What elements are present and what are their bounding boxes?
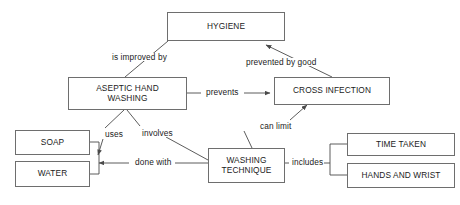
edge-label-involves: involves [141,129,174,137]
edge-label-includes: includes [291,158,324,166]
edge-label-can-limit: can limit [259,122,292,130]
node-aseptic-hand-washing-label: ASEPTIC HAND WASHING [94,84,161,104]
node-cross-infection[interactable]: CROSS INFECTION [274,77,390,105]
node-hygiene[interactable]: HYGIENE [167,12,285,41]
node-time-taken-label: TIME TAKEN [374,140,428,150]
concept-map-canvas: HYGIENE ASEPTIC HAND WASHING CROSS INFEC… [0,0,460,205]
node-hygiene-label: HYGIENE [205,22,247,32]
node-water[interactable]: WATER [15,161,90,187]
node-water-label: WATER [36,169,70,179]
node-soap[interactable]: SOAP [15,130,90,155]
node-soap-label: SOAP [39,138,66,148]
node-hands-and-wrist-label: HANDS AND WRIST [360,171,443,181]
edge-label-is-improved-by: is improved by [111,53,168,61]
node-hands-and-wrist[interactable]: HANDS AND WRIST [347,163,455,188]
edge-label-prevented-by-good: prevented by good [245,58,317,66]
node-cross-infection-label: CROSS INFECTION [291,86,373,96]
edge-label-uses: uses [104,130,124,138]
node-washing-technique-label: WASHING TECHNIQUE [220,156,274,176]
node-washing-technique[interactable]: WASHING TECHNIQUE [208,148,285,183]
node-time-taken[interactable]: TIME TAKEN [347,133,455,156]
node-aseptic-hand-washing[interactable]: ASEPTIC HAND WASHING [68,77,187,110]
bracket-includes [330,144,347,175]
edge-label-done-with: done with [134,158,172,166]
bracket-soap-water [90,142,99,174]
edge-label-prevents: prevents [205,88,240,96]
